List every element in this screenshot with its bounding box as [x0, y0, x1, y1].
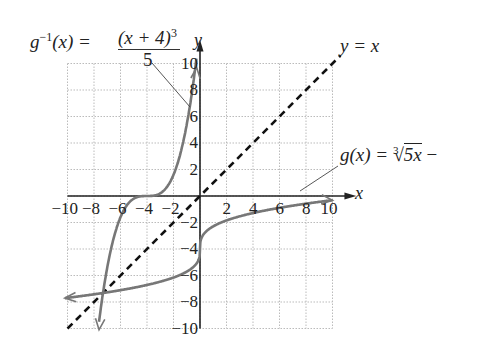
y-axis-label: y	[194, 30, 202, 51]
ginv-sup: −1	[40, 30, 53, 44]
y-tick-label: 2	[190, 160, 199, 180]
g-label: g(x) = 3√5x −	[340, 144, 437, 166]
x-tick-label: −4	[135, 199, 153, 219]
y-tick-label: 6	[190, 107, 199, 127]
x-tick-label: −10	[52, 199, 79, 219]
x-tick-label: 2	[223, 199, 232, 219]
g-tail: −	[427, 144, 438, 165]
y-tick-label: 10	[181, 54, 198, 74]
g-lhs: g(x) =	[340, 144, 388, 165]
ginv-arg: (x) =	[52, 31, 91, 52]
x-tick-label: 6	[276, 199, 285, 219]
ginv-denominator: 5	[143, 49, 153, 71]
y-tick-label: 4	[190, 133, 199, 153]
x-tick-label: −6	[109, 199, 127, 219]
ginv-num-text: (x + 4)	[118, 27, 171, 48]
y-tick-label: −4	[180, 239, 198, 259]
y-tick-label: −8	[180, 292, 198, 312]
y-tick-label: −10	[171, 319, 198, 339]
x-tick-label: −8	[82, 199, 100, 219]
radical-icon: √	[393, 144, 403, 165]
ginv-label: g−1(x) =	[30, 30, 91, 53]
g-radicand: 5x	[404, 143, 422, 165]
ginv-num-sup: 3	[171, 26, 177, 40]
y-tick-label: −6	[180, 266, 198, 286]
y-equals-x-label: y = x	[340, 35, 379, 57]
x-tick-label: 8	[302, 199, 311, 219]
x-tick-label: 4	[249, 199, 258, 219]
y-tick-label: 8	[190, 80, 199, 100]
ginv-numerator: (x + 4)3	[118, 26, 177, 49]
x-tick-label: −2	[162, 199, 180, 219]
ginv-g: g	[30, 31, 40, 52]
x-axis-label: x	[355, 183, 363, 204]
curves	[65, 56, 341, 330]
x-tick-label: 10	[321, 199, 338, 219]
y-tick-label: −2	[180, 213, 198, 233]
